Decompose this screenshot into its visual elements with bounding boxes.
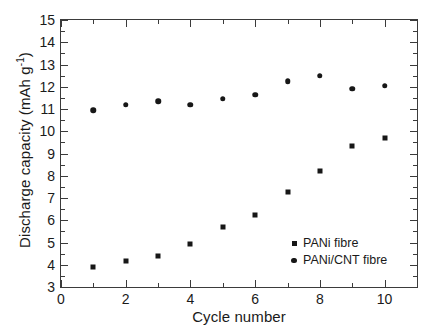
x-axis-minor-tick (288, 283, 289, 287)
legend-label: PANi fibre (303, 235, 358, 252)
x-axis-tick (385, 280, 386, 287)
y-axis-minor-tick (61, 187, 65, 188)
y-axis-minor-tick (61, 142, 65, 143)
y-axis-minor-tick (61, 165, 65, 166)
y-axis-tick-label: 14 (39, 34, 55, 50)
y-axis-tick (410, 287, 417, 288)
x-axis-minor-tick (93, 283, 94, 287)
y-axis-title: Discharge capacity (mAh g-1) (14, 0, 36, 300)
y-axis-minor-tick (61, 120, 65, 121)
data-point (188, 241, 193, 246)
circle-marker-icon (285, 258, 303, 264)
y-axis-minor-tick (413, 165, 417, 166)
data-point (382, 83, 388, 89)
y-axis-tick-label: 13 (39, 57, 55, 73)
y-axis-minor-tick (413, 254, 417, 255)
x-axis-minor-tick (352, 20, 353, 24)
y-axis-minor-tick (61, 276, 65, 277)
y-axis-tick (61, 287, 68, 288)
x-axis-minor-tick (223, 283, 224, 287)
x-axis-tick (255, 20, 256, 27)
y-axis-tick (61, 176, 68, 177)
y-axis-tick (410, 198, 417, 199)
y-axis-tick-label: 3 (47, 279, 55, 295)
y-axis-minor-tick (61, 231, 65, 232)
y-axis-tick (61, 109, 68, 110)
x-axis-minor-tick (93, 20, 94, 24)
y-axis-tick-label: 12 (39, 79, 55, 95)
x-axis-minor-tick (352, 283, 353, 287)
y-axis-minor-tick (413, 231, 417, 232)
y-axis-minor-tick (61, 31, 65, 32)
y-axis-tick (410, 243, 417, 244)
y-axis-minor-tick (61, 254, 65, 255)
legend-item: PANi fibre (285, 235, 387, 252)
y-axis-tick (410, 154, 417, 155)
legend-label: PANi/CNT fibre (303, 252, 387, 269)
data-point (91, 107, 97, 113)
x-axis-tick-label: 0 (57, 291, 65, 307)
y-axis-tick (61, 42, 68, 43)
data-point (317, 169, 322, 174)
data-point (156, 253, 161, 258)
x-axis-title: Cycle number (60, 308, 418, 325)
x-axis-minor-tick (158, 283, 159, 287)
chart-legend: PANi fibrePANi/CNT fibre (285, 235, 387, 269)
y-axis-tick (410, 87, 417, 88)
y-axis-minor-tick (413, 98, 417, 99)
y-axis-tick-label: 5 (47, 235, 55, 251)
y-axis-minor-tick (61, 209, 65, 210)
data-point (155, 98, 161, 104)
data-point (285, 78, 291, 84)
y-axis-minor-tick (413, 31, 417, 32)
x-axis-tick (190, 20, 191, 27)
y-axis-tick (61, 265, 68, 266)
x-axis-tick (385, 20, 386, 27)
x-axis-tick (255, 280, 256, 287)
y-axis-tick (61, 65, 68, 66)
y-axis-tick-label: 15 (39, 12, 55, 28)
y-axis-tick-label: 7 (47, 190, 55, 206)
x-axis-tick (61, 20, 62, 27)
data-point (188, 102, 194, 108)
y-axis-tick-label: 11 (40, 101, 55, 117)
y-axis-tick (61, 20, 68, 21)
data-point (252, 92, 258, 98)
y-axis-tick (410, 109, 417, 110)
x-axis-minor-tick (417, 283, 418, 287)
y-axis-tick-label: 10 (39, 123, 55, 139)
y-axis-tick (410, 42, 417, 43)
y-axis-tick (410, 65, 417, 66)
y-axis-tick-label: 8 (47, 168, 55, 184)
x-axis-tick (190, 280, 191, 287)
data-point (382, 135, 387, 140)
y-axis-tick (410, 265, 417, 266)
x-axis-tick-label: 6 (251, 291, 259, 307)
y-axis-minor-tick (413, 209, 417, 210)
data-point (220, 224, 225, 229)
data-point (317, 73, 323, 79)
y-axis-minor-tick (61, 98, 65, 99)
x-axis-tick-label: 2 (122, 291, 130, 307)
x-axis-tick-label: 8 (316, 291, 324, 307)
data-point (285, 190, 290, 195)
y-axis-minor-tick (61, 53, 65, 54)
data-point (91, 264, 96, 269)
discharge-capacity-chart: Discharge capacity (mAh g-1) 34567891011… (0, 0, 430, 336)
y-axis-tick (61, 243, 68, 244)
data-point (350, 86, 356, 92)
y-axis-tick (61, 87, 68, 88)
y-axis-tick (61, 198, 68, 199)
y-axis-minor-tick (413, 76, 417, 77)
square-marker-icon (285, 241, 303, 246)
plot-area: 34567891011121314150246810 PANi fibrePAN… (60, 19, 418, 288)
x-axis-tick (126, 280, 127, 287)
data-point (123, 259, 128, 264)
x-axis-minor-tick (288, 20, 289, 24)
data-point (253, 212, 258, 217)
x-axis-minor-tick (223, 20, 224, 24)
y-axis-tick (61, 154, 68, 155)
x-axis-tick-label: 4 (187, 291, 195, 307)
y-axis-minor-tick (413, 142, 417, 143)
x-axis-tick-label: 10 (377, 291, 393, 307)
